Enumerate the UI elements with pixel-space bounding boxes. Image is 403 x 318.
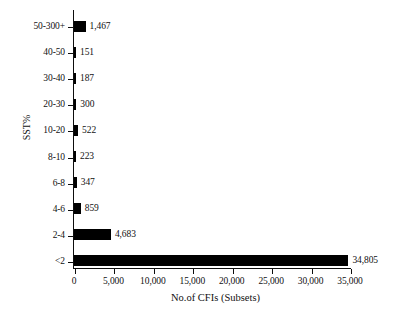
bar	[74, 47, 76, 58]
y-axis-tick	[68, 184, 73, 185]
x-axis-title: No.of CFIs (Subsets)	[0, 292, 403, 304]
y-axis-tick-label: 20-30	[5, 99, 65, 109]
y-axis-tick-label: 6-8	[5, 178, 65, 188]
bar	[74, 203, 81, 214]
bar-value-label: 1,467	[90, 21, 111, 32]
y-axis-tick	[68, 105, 73, 106]
y-axis-tick	[68, 158, 73, 159]
y-axis-tick-label: 40-50	[5, 47, 65, 57]
bar-value-label: 34,805	[352, 255, 378, 266]
y-axis-tick-label: 2-4	[5, 230, 65, 240]
bar	[74, 99, 76, 110]
bar-value-label: 151	[80, 47, 94, 58]
bar	[74, 255, 348, 266]
bar	[74, 73, 76, 84]
bar-value-label: 300	[80, 99, 94, 110]
bar-chart: SST% No.of CFIs (Subsets) 50-300+40-5030…	[0, 0, 403, 318]
bar-value-label: 223	[80, 151, 94, 162]
y-axis-tick-label: <2	[5, 256, 65, 266]
y-axis-tick	[68, 53, 73, 54]
bar-value-label: 187	[80, 73, 94, 84]
y-axis-tick-label: 30-40	[5, 73, 65, 83]
y-axis-tick	[68, 27, 73, 28]
y-axis-tick-label: 50-300+	[5, 21, 65, 31]
bar	[74, 21, 86, 32]
x-axis-tick	[233, 269, 234, 274]
bar	[74, 229, 111, 240]
bar-value-label: 4,683	[115, 229, 136, 240]
y-axis-tick-label: 4-6	[5, 204, 65, 214]
x-axis-tick	[351, 269, 352, 274]
bar-value-label: 347	[81, 177, 95, 188]
y-axis-tick-label: 8-10	[5, 152, 65, 162]
x-axis-tick	[312, 269, 313, 274]
y-axis-tick	[68, 210, 73, 211]
bar-value-label: 859	[85, 203, 99, 214]
y-axis-tick-label: 10-20	[5, 125, 65, 135]
y-axis-tick	[68, 79, 73, 80]
bar-value-label: 522	[82, 125, 96, 136]
x-axis-tick	[272, 269, 273, 274]
x-axis-tick-label: 35,000	[320, 276, 380, 287]
x-axis-line	[73, 268, 351, 269]
x-axis-tick	[193, 269, 194, 274]
y-axis-tick	[68, 262, 73, 263]
bar	[74, 151, 76, 162]
y-axis-tick	[68, 131, 73, 132]
bar	[74, 177, 77, 188]
x-axis-tick	[154, 269, 155, 274]
bar	[74, 125, 78, 136]
y-axis-tick	[68, 236, 73, 237]
x-axis-tick	[114, 269, 115, 274]
x-axis-tick	[75, 269, 76, 274]
